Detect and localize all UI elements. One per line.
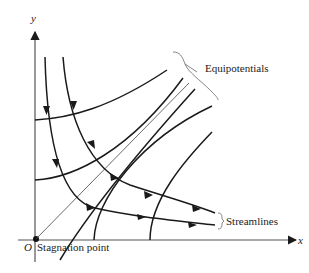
equipotentials-label: Equipotentials [205,62,269,74]
arrow-down-icon [52,159,59,168]
stagnation-point-label: Stagnation point [37,241,109,253]
streamline [45,57,215,225]
equipotential-line [35,70,167,120]
equipotential-lines [35,70,212,260]
y-axis-label: y [30,12,36,24]
streamlines-label: Streamlines [226,215,278,227]
streamline-arrows [43,101,201,228]
diagonal-line [36,83,189,239]
streamline [63,57,215,213]
flow-diagram: y x O Stagnation point Equipotentials St [0,0,309,273]
arrow-right-icon [137,214,146,220]
x-axis-label: x [297,234,303,246]
streamlines-brace [218,213,224,229]
equipotential-line [60,89,195,260]
streamlines [45,57,215,225]
origin-label: O [24,241,32,253]
